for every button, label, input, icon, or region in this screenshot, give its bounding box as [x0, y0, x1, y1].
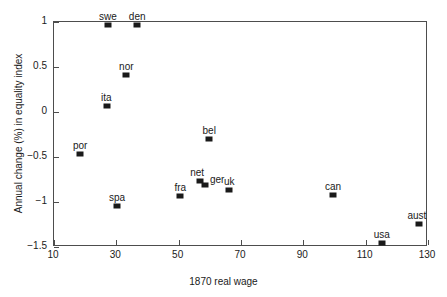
- x-axis-tick-labels: 1030507090110130: [0, 0, 447, 297]
- y-axis-title: Annual change (%) in equality index: [13, 54, 24, 214]
- x-axis-title: 1870 real wage: [0, 276, 447, 287]
- scatter-chart-figure: swedennoritaporspafranetgerukbelcanusaau…: [0, 0, 447, 297]
- x-tick-label: 50: [172, 250, 183, 260]
- x-tick-label: 110: [357, 250, 373, 260]
- x-tick-label: 130: [419, 250, 436, 260]
- x-tick-label: 70: [234, 250, 245, 260]
- x-tick-label: 30: [110, 250, 121, 260]
- x-tick-label: 10: [47, 250, 58, 260]
- x-tick-label: 90: [297, 250, 308, 260]
